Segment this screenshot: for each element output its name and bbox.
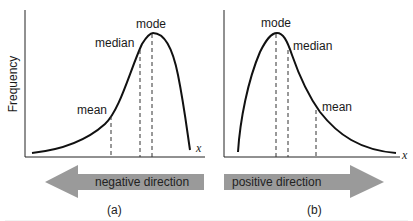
caption-b: (b) <box>307 203 322 217</box>
mean-label: mean <box>77 103 107 117</box>
panel-b: x mode median mean positive direction (b… <box>224 10 408 217</box>
negative-direction-label: negative direction <box>95 175 189 189</box>
y-axis-label: Frequency <box>6 56 20 113</box>
skewness-figure: Frequency x mean median mode negative di… <box>0 0 413 221</box>
x-axis-label: x <box>401 148 408 162</box>
panel-a: Frequency x mean median mode negative di… <box>6 10 205 217</box>
mean-label: mean <box>322 100 352 114</box>
distribution-curve <box>32 33 190 153</box>
median-label: median <box>95 36 134 50</box>
mode-label: mode <box>136 17 166 31</box>
median-label: median <box>293 39 332 53</box>
positive-direction-label: positive direction <box>232 175 321 189</box>
x-axis-label: x <box>195 141 202 155</box>
mode-label: mode <box>261 16 291 30</box>
caption-a: (a) <box>107 203 122 217</box>
